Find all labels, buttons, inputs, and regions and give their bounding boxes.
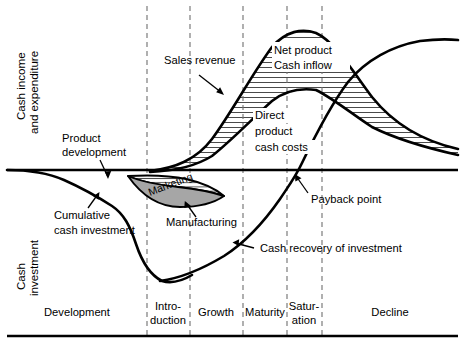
net-product-inflow-label-line1: Net product <box>274 44 333 56</box>
stage-label-saturation-line2: ation <box>292 314 316 326</box>
payback-point-annotation: Payback point <box>295 174 382 205</box>
stage-label-introduction-line1: Intro- <box>155 300 181 312</box>
product-development-label-line2: development <box>62 146 127 158</box>
cash-recovery-arrowhead <box>233 239 240 246</box>
payback-point-arrowhead <box>295 174 302 182</box>
stage-label-introduction-line2: duction <box>150 314 186 326</box>
product-development-arrowhead <box>105 171 112 179</box>
y-axis-upper-label-line2: and expenditure <box>27 51 40 134</box>
y-axis-lower-label: Cash investment <box>14 239 40 296</box>
sales-revenue-label: Sales revenue <box>164 54 236 66</box>
payback-point-label: Payback point <box>311 193 382 205</box>
cumulative-cash-investment-annotation: Cumulative cash investment <box>54 192 136 236</box>
sales-revenue-annotation: Sales revenue <box>164 54 236 95</box>
sales-revenue-arrowhead <box>216 87 224 95</box>
cash-recovery-label: Cash recovery of investment <box>260 242 403 254</box>
stage-labels: Development Intro- duction Growth Maturi… <box>44 300 409 326</box>
y-axis-upper-label-line1: Cash income <box>14 52 27 120</box>
stage-label-maturity: Maturity <box>245 306 285 318</box>
cumulative-investment-label-line2: cash investment <box>54 224 136 236</box>
product-development-label-line1: Product <box>62 132 101 144</box>
y-axis-lower-label-line1: Cash <box>14 263 27 290</box>
stage-label-development: Development <box>44 306 111 318</box>
stage-label-decline: Decline <box>371 306 408 318</box>
lifecycle-chart-svg: Cash income and expenditure Cash investm… <box>0 0 465 343</box>
y-axis-upper-label: Cash income and expenditure <box>14 51 40 134</box>
product-lifecycle-diagram: Cash income and expenditure Cash investm… <box>0 0 465 343</box>
stage-label-growth: Growth <box>198 306 234 318</box>
net-product-inflow-label-line2: Cash inflow <box>274 59 333 71</box>
product-development-annotation: Product development <box>62 132 127 179</box>
manufacturing-label: Manufacturing <box>166 216 237 228</box>
net-product-cash-inflow-annotation: Net product Cash inflow <box>272 42 350 72</box>
cumulative-investment-label-line1: Cumulative <box>54 209 110 221</box>
direct-costs-label-line1: Direct <box>255 109 285 121</box>
direct-costs-label-line3: cash costs <box>255 141 308 153</box>
stage-label-saturation-line1: Satur- <box>289 300 320 312</box>
cash-recovery-annotation: Cash recovery of investment <box>233 239 403 254</box>
direct-costs-label-line2: product <box>255 125 293 137</box>
direct-product-cash-costs-annotation: Direct product cash costs <box>253 108 315 154</box>
y-axis-lower-label-line2: investment <box>27 239 40 296</box>
